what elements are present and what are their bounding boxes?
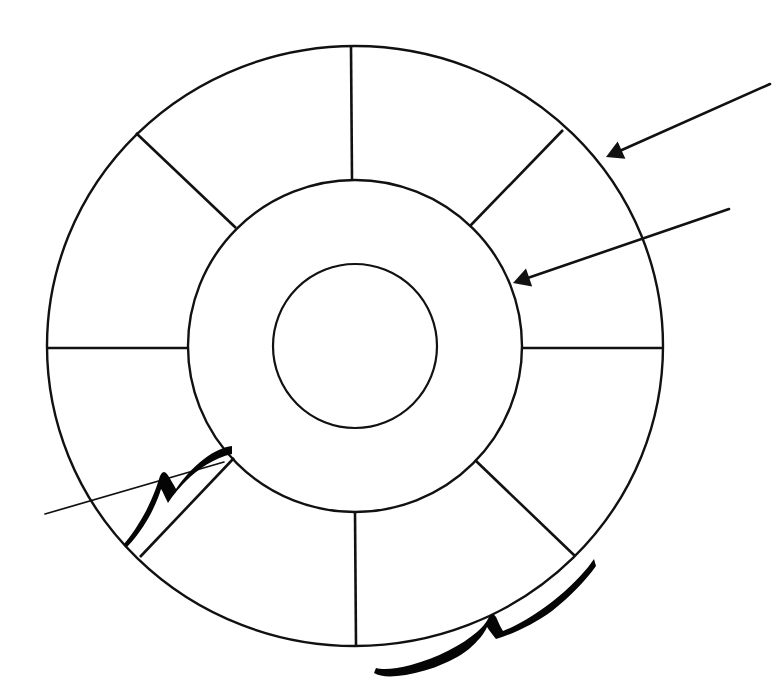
spoke-top	[351, 47, 352, 180]
spoke-upper-left	[136, 133, 236, 228]
figure-canvas	[0, 0, 775, 692]
spoke-bottom	[355, 512, 356, 645]
annular-disc-diagram	[0, 0, 775, 692]
middle-circle	[188, 180, 522, 512]
leader-middle-ring-shaft	[522, 209, 729, 280]
leader-outer-ring	[606, 84, 770, 159]
leader-outer-ring-shaft	[615, 84, 770, 153]
spoke-upper-right	[470, 130, 563, 226]
squiggle-brace-left	[124, 446, 232, 547]
spoke-group	[47, 47, 663, 645]
squiggle-brace-left-path	[124, 446, 232, 547]
inner-circle	[273, 264, 437, 428]
leader-middle-ring	[513, 209, 729, 286]
spoke-lower-right	[475, 460, 575, 556]
